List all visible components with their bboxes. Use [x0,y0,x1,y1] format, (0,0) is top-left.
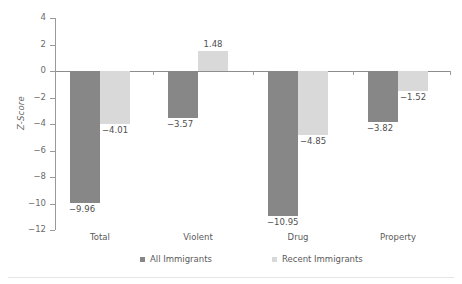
bar-value-label: −3.82 [367,123,393,133]
legend-swatch-icon [140,257,145,262]
chart-legend: All ImmigrantsRecent Immigrants [0,254,462,270]
y-tick-label: 4 [41,12,46,22]
legend-swatch-icon [272,257,277,262]
y-tick: 4 [50,18,55,19]
legend-label: All Immigrants [150,254,212,264]
bar [298,71,328,135]
y-axis-label: Z-Score [16,83,26,143]
bar-value-label: −10.95 [267,217,298,227]
y-tick-label: 0 [41,65,46,75]
plot-area: 420−2−4−6−8−10−12 −9.96−4.01−3.571.48−10… [55,18,450,230]
bar-value-label: −1.52 [400,92,426,102]
bar-value-label: 1.48 [204,39,223,49]
x-tick [253,71,254,75]
y-tick-label: −10 [28,198,46,208]
y-tick-label: −8 [33,171,46,181]
category-label-total: Total [90,232,110,242]
y-tick-label: 2 [41,39,46,49]
y-tick-label: −2 [33,92,46,102]
bar [168,71,198,118]
x-tick [450,71,451,75]
y-tick: −6 [50,151,55,152]
bar-chart-figure: Z-Score 420−2−4−6−8−10−12 −9.96−4.01−3.5… [0,0,462,284]
category-label-drug: Drug [288,232,309,242]
y-tick: 2 [50,45,55,46]
y-tick-label: −4 [33,118,46,128]
category-label-property: Property [380,232,416,242]
bar-value-label: −3.57 [167,119,193,129]
y-tick: −8 [50,177,55,178]
y-axis-line [55,18,56,230]
bottom-divider [8,277,454,278]
category-label-violent: Violent [183,232,213,242]
bar [398,71,428,91]
legend-item[interactable]: Recent Immigrants [272,254,363,264]
x-tick [55,71,56,75]
bar [70,71,100,203]
legend-item[interactable]: All Immigrants [140,254,212,264]
x-tick [153,71,154,75]
bar [100,71,130,124]
bar-value-label: −4.85 [300,136,326,146]
bar [198,51,228,71]
bar-value-label: −4.01 [102,125,128,135]
x-tick [353,71,354,75]
bar [268,71,298,216]
y-tick: −12 [50,230,55,231]
y-tick: −2 [50,98,55,99]
bar [368,71,398,122]
y-tick-label: −6 [33,145,46,155]
y-tick-label: −12 [28,224,46,234]
bar-value-label: −9.96 [69,204,95,214]
legend-label: Recent Immigrants [282,254,363,264]
y-tick: −4 [50,124,55,125]
y-tick: −10 [50,204,55,205]
